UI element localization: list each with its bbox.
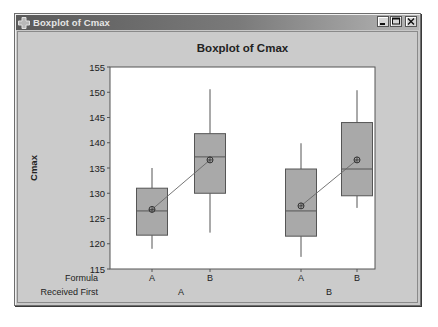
y-tick-label: 145 <box>89 112 105 123</box>
y-axis-label: Cmax <box>28 154 39 181</box>
x-received-first-label: B <box>326 287 332 297</box>
x-factor-label-received-first: Received First <box>40 287 98 297</box>
y-tick-label: 150 <box>89 87 105 98</box>
x-formula-label: A <box>298 273 304 283</box>
y-tick-label: 120 <box>89 238 105 249</box>
plot-area <box>110 67 375 269</box>
y-tick-label: 130 <box>89 188 105 199</box>
x-formula-label: B <box>207 273 213 283</box>
x-formula-label: B <box>354 273 360 283</box>
close-icon <box>406 17 416 26</box>
window-title: Boxplot of Cmax <box>33 17 110 28</box>
close-button[interactable] <box>405 16 417 27</box>
y-tick-label: 135 <box>89 163 105 174</box>
y-tick-label: 125 <box>89 213 105 224</box>
iqr-box <box>195 134 226 194</box>
window-controls <box>377 16 417 27</box>
boxplot-chart: Boxplot of Cmax1151201251301351401451501… <box>18 32 419 304</box>
minimize-button[interactable] <box>377 16 389 27</box>
x-factor-label-formula: Formula <box>65 273 98 283</box>
x-formula-label: A <box>149 273 155 283</box>
x-received-first-label: A <box>178 287 184 297</box>
minimize-icon <box>378 17 388 26</box>
window-titlebar[interactable]: Boxplot of Cmax <box>16 15 419 30</box>
chart-window: Boxplot of Cmax Boxplot of Cmax115120125… <box>14 13 421 306</box>
maximize-button[interactable] <box>390 16 402 27</box>
maximize-icon <box>391 17 401 26</box>
minitab-graph-icon <box>18 17 30 29</box>
chart-area: Boxplot of Cmax1151201251301351401451501… <box>17 31 418 303</box>
y-tick-label: 140 <box>89 137 105 148</box>
chart-title: Boxplot of Cmax <box>197 42 289 54</box>
y-tick-label: 155 <box>89 62 105 73</box>
